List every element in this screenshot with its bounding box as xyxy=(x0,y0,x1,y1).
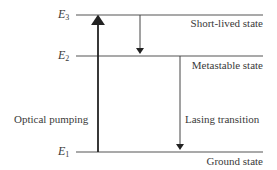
state-label-ground: Ground state xyxy=(206,155,263,167)
level-symbol-e2: E2 xyxy=(58,49,69,65)
level-symbol-e3: E3 xyxy=(58,8,69,24)
level-symbol-e1: E1 xyxy=(58,145,69,161)
state-label-metastable: Metastable state xyxy=(192,59,263,71)
pump-label: Optical pumping xyxy=(14,113,88,125)
lasing-label: Lasing transition xyxy=(185,113,259,125)
state-label-short-lived: Short-lived state xyxy=(191,17,263,29)
